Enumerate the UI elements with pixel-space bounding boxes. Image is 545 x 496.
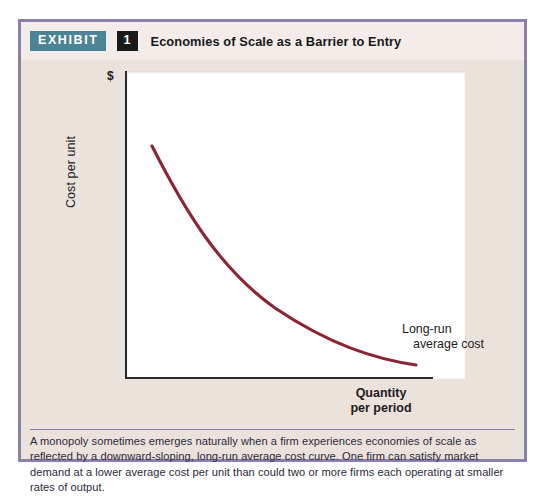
figure-area: $ Cost per unit Long-run average cost Qu…: [21, 60, 524, 428]
x-axis-title-line1: Quantity: [356, 386, 407, 400]
figure-caption: A monopoly sometimes emerges naturally w…: [30, 434, 518, 496]
y-axis-unit-label: $: [107, 69, 114, 83]
curve-annotation-line2: average cost: [402, 337, 484, 352]
caption-divider: [30, 429, 515, 430]
y-axis-title: Cost per unit: [64, 112, 78, 232]
exhibit-panel: EXHIBIT 1 Economies of Scale as a Barrie…: [18, 19, 527, 462]
exhibit-tag-badge: EXHIBIT: [30, 31, 106, 50]
curve-annotation-line1: Long-run: [402, 322, 452, 336]
x-axis-title: Quantity per period: [321, 386, 441, 416]
exhibit-header: EXHIBIT 1 Economies of Scale as a Barrie…: [21, 22, 524, 60]
x-axis-title-line2: per period: [350, 401, 411, 415]
page-title: Economies of Scale as a Barrier to Entry: [151, 34, 402, 49]
exhibit-number-badge: 1: [117, 31, 138, 50]
curve-annotation-label: Long-run average cost: [402, 322, 484, 352]
